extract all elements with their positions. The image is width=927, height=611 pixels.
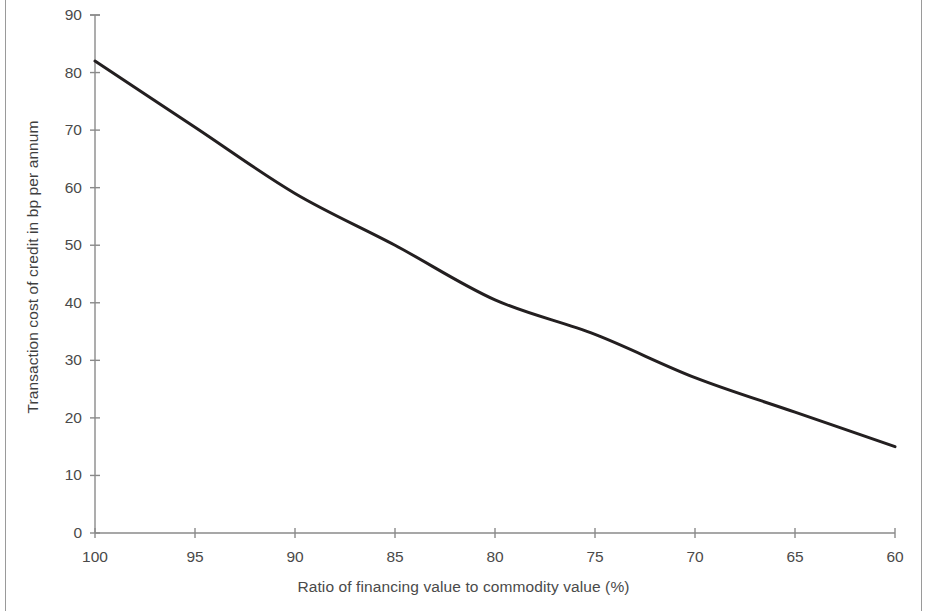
y-axis-tick-label: 10 (40, 468, 82, 484)
x-axis-title: Ratio of financing value to commodity va… (0, 578, 927, 596)
y-axis-group (90, 15, 100, 533)
y-axis-tick-label: 90 (40, 7, 82, 23)
y-axis-tick-label: 70 (40, 122, 82, 138)
y-axis-tick-label: 60 (40, 180, 82, 196)
y-axis-tick-label: 0 (40, 525, 82, 541)
x-axis-tick-label: 75 (586, 549, 603, 565)
y-axis-tick-label: 30 (40, 353, 82, 369)
x-axis-tick-label: 90 (286, 549, 303, 565)
y-axis-tick-label: 40 (40, 295, 82, 311)
x-axis-group (95, 528, 895, 538)
data-line-transaction-cost (95, 61, 895, 447)
series-group (95, 61, 895, 447)
y-axis-tick-label: 50 (40, 237, 82, 253)
chart-figure: Transaction cost of credit in bp per ann… (0, 0, 927, 611)
x-axis-tick-label: 70 (686, 549, 703, 565)
x-axis-tick-label: 65 (786, 549, 803, 565)
x-axis-tick-label: 100 (82, 549, 108, 565)
x-axis-tick-label: 80 (486, 549, 503, 565)
x-axis-tick-label: 95 (186, 549, 203, 565)
x-axis-tick-label: 60 (886, 549, 903, 565)
plot-area (0, 0, 927, 611)
y-axis-tick-label: 80 (40, 65, 82, 81)
x-axis-tick-label: 85 (386, 549, 403, 565)
y-axis-tick-label: 20 (40, 410, 82, 426)
